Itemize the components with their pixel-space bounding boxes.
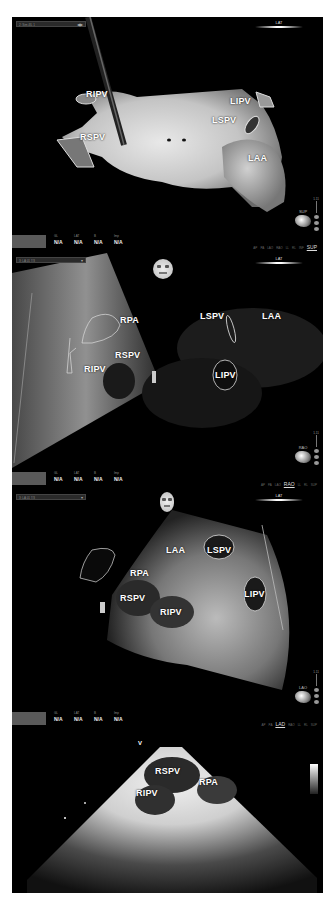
label-ripv: RIPV [160, 607, 182, 617]
label-lipv: LIPV [215, 370, 236, 380]
view-nav[interactable]: APPALAORAOLLRLINF SUP [253, 244, 317, 250]
ice-overlay-render [12, 253, 323, 490]
label-lspv: LSPV [207, 545, 231, 555]
la-shell-render [12, 17, 323, 253]
map-selector[interactable]: 3: LA 01 7/3 ▾ [16, 494, 86, 500]
patient-orientation-face-icon [153, 259, 173, 279]
map-selector[interactable]: 3: LA 01 7/3 ▾ [16, 257, 86, 263]
map-panel-3d-shell[interactable]: 2: Sim 4IL 1 ◀▶ LAT RIPV RSPV LIPV LSPV … [12, 17, 323, 253]
patient-orientation-face-icon [160, 492, 174, 512]
label-lipv: LIPV [244, 589, 265, 599]
label-lspv: LSPV [212, 115, 236, 125]
label-ripv: RIPV [84, 364, 106, 374]
map-selector[interactable]: 2: Sim 4IL 1 ◀▶ [16, 21, 86, 27]
orientation-heart-icon: RAO [295, 445, 311, 463]
dropdown-icon[interactable]: ▾ [81, 495, 83, 501]
zoom-scale-slider[interactable]: 1.11 [312, 431, 320, 471]
label-ripv: RIPV [86, 89, 108, 99]
orientation-indicator: LAT [255, 20, 303, 28]
label-laa: LAA [248, 153, 267, 163]
label-rspv: RSPV [155, 766, 180, 776]
status-bar: GLN/A LATN/A BN/A ImpN/A APPALAORAOLLRLI… [12, 231, 323, 253]
map-panel-rao[interactable]: 3: LA 01 7/3 ▾ LAT RPA RSPV RIPV LSPV LA… [12, 253, 323, 490]
label-rspv: RSPV [120, 593, 145, 603]
ice-ultrasound-panel[interactable]: V RSPV RPA RIPV [12, 730, 323, 893]
label-rspv: RSPV [115, 350, 140, 360]
label-ripv: RIPV [136, 788, 158, 798]
label-rpa: RPA [199, 777, 218, 787]
dropdown-icon[interactable]: ▾ [81, 258, 83, 264]
orientation-indicator: LAT [255, 256, 303, 264]
status-bar: GLN/A LATN/A BN/A ImpN/A APPALAO RAO LLR… [12, 468, 323, 490]
view-current[interactable]: LAD [275, 721, 285, 727]
view-nav[interactable]: APPALAO RAO LLRLSUP [261, 481, 317, 487]
thumbnail[interactable] [12, 235, 46, 248]
view-current[interactable]: SUP [307, 244, 317, 250]
thumbnail[interactable] [12, 712, 46, 725]
label-lipv: LIPV [230, 96, 251, 106]
status-bar: GLN/A LATN/A BN/A ImpN/A APPA LAD RAOLLR… [12, 708, 323, 730]
zoom-scale-slider[interactable]: 1.11 [312, 670, 320, 710]
map-panel-lao[interactable]: 3: LA 01 7/3 ▾ LAT LAA LSPV RPA RSPV RIP… [12, 490, 323, 730]
orientation-indicator: LAT [255, 493, 303, 501]
label-laa: LAA [166, 545, 185, 555]
label-rspv: RSPV [80, 132, 105, 142]
label-rpa: RPA [120, 315, 139, 325]
orientation-heart-icon: LAO [295, 685, 311, 703]
thumbnail[interactable] [12, 472, 46, 485]
orientation-heart-icon: SUP [295, 209, 311, 227]
depth-marker: V [138, 740, 142, 746]
label-laa: LAA [262, 311, 281, 321]
ultrasound-sector-image [12, 730, 323, 893]
label-rpa: RPA [130, 568, 149, 578]
view-nav[interactable]: APPA LAD RAOLLRLSUP [262, 721, 317, 727]
view-current[interactable]: RAO [284, 481, 295, 487]
label-lspv: LSPV [200, 311, 224, 321]
dropdown-icon[interactable]: ◀▶ [77, 22, 83, 28]
